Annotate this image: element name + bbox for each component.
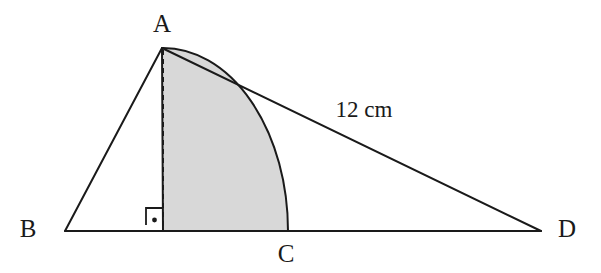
right-angle-dot-icon: [152, 218, 157, 223]
side-length-label: 12 cm: [336, 97, 393, 122]
geometry-figure: A B C D 12 cm: [0, 0, 601, 273]
vertex-label-c: C: [278, 240, 295, 267]
geometry-diagram: A B C D 12 cm: [0, 0, 601, 273]
vertex-label-d: D: [558, 215, 576, 242]
vertex-label-a: A: [153, 10, 171, 37]
figure-background: [0, 0, 601, 273]
vertex-label-b: B: [20, 215, 37, 242]
